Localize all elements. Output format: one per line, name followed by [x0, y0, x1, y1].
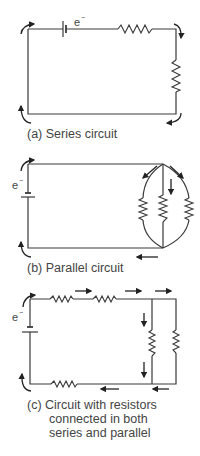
panel-b-parallel-circuit: e − (b) Parallel circuit: [12, 160, 193, 275]
resistor-icon: [172, 60, 180, 92]
panel-caption: (a) Series circuit: [27, 127, 118, 141]
resistor-icon: [159, 195, 167, 222]
panel-a-series-circuit: e − (a) Series circuit: [21, 14, 181, 141]
battery-icon: [21, 193, 35, 197]
electron-label: e: [12, 311, 18, 323]
panel-c-series-parallel-circuit: e − (c) Circuit with resistors connected…: [12, 291, 179, 440]
electron-flow-arrow-icon: [174, 24, 181, 38]
resistor-icon: [173, 330, 179, 353]
resistor-icon: [139, 198, 147, 220]
panel-caption-line-2: connected in both: [49, 412, 148, 426]
electron-charge: −: [81, 14, 85, 21]
resistor-icon: [149, 330, 155, 356]
resistor-icon: [118, 25, 152, 33]
wire: [143, 164, 163, 248]
resistor-icon: [93, 296, 116, 302]
circuit-diagram-figure: e − (a) Series circuit e −: [0, 0, 200, 456]
electron-label: e: [74, 16, 80, 28]
panel-caption-line-3: series and parallel: [49, 426, 150, 440]
electron-charge: −: [19, 177, 23, 184]
panel-caption: (b) Parallel circuit: [27, 261, 124, 275]
panel-caption-line-1: (c) Circuit with resistors: [27, 398, 157, 412]
battery-icon: [22, 327, 38, 332]
electron-flow-arrow-icon: [23, 295, 35, 307]
electron-flow-arrow-icon: [21, 242, 31, 257]
electron-charge: −: [19, 309, 23, 316]
battery-icon: [63, 21, 66, 37]
wire: [28, 164, 163, 248]
electron-label: e: [12, 179, 18, 191]
electron-flow-arrow-icon: [170, 166, 183, 178]
wire: [28, 29, 176, 114]
resistor-icon: [51, 381, 77, 387]
resistor-icon: [185, 198, 193, 220]
resistor-icon: [50, 296, 73, 302]
